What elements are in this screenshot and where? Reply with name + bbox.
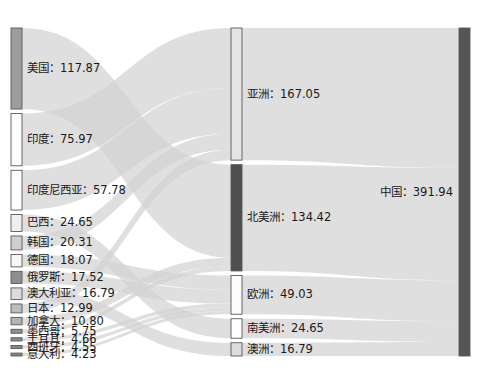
sankey-node-label-indonesia: 印度尼西亚：57.78 [27,183,126,197]
sankey-node-label-russia: 俄罗斯：17.52 [27,270,104,284]
sankey-node-oceania[interactable] [231,343,242,356]
sankey-node-label-oceania: 澳洲：16.79 [247,342,313,356]
sankey-node-russia[interactable] [11,271,22,283]
sankey-node-label-brazil: 巴西：24.65 [27,215,93,229]
sankey-node-korea[interactable] [11,236,22,250]
sankey-node-label-china: 中国：391.94 [380,185,453,199]
sankey-node-label-us: 美国：117.87 [27,61,100,75]
sankey-node-europe[interactable] [231,275,242,314]
sankey-node-asia[interactable] [231,28,242,160]
sankey-node-us[interactable] [11,28,22,109]
sankey-node-samerica[interactable] [231,319,242,338]
sankey-node-mexico[interactable] [11,329,22,333]
sankey-node-canada[interactable] [11,317,22,324]
sankey-node-brazil[interactable] [11,215,22,232]
sankey-node-japan[interactable] [11,304,22,313]
sankey-node-label-europe: 欧洲：49.03 [247,287,313,301]
sankey-node-italy[interactable] [11,353,22,356]
sankey-diagram: 美国：117.87印度：75.97印度尼西亚：57.78巴西：24.65韩国：2… [0,0,483,369]
sankey-node-label-namerica: 北美洲：134.42 [247,210,331,224]
sankey-node-label-india: 印度：75.97 [27,132,93,146]
sankey-node-label-italy: 意大利：4.23 [27,347,97,361]
sankey-node-label-australia: 澳大利亚：16.79 [27,286,115,300]
sankey-node-label-korea: 韩国：20.31 [27,235,93,249]
sankey-node-namerica[interactable] [231,165,242,271]
sankey-node-india[interactable] [11,114,22,166]
sankey-node-turkey[interactable] [11,338,22,341]
sankey-node-china[interactable] [459,28,470,356]
sankey-node-label-samerica: 南美洲：24.65 [247,321,324,335]
sankey-node-australia[interactable] [11,288,22,300]
sankey-node-label-germany: 德国：18.07 [27,253,93,267]
sankey-node-spain[interactable] [11,345,22,348]
sankey-canvas: 美国：117.87印度：75.97印度尼西亚：57.78巴西：24.65韩国：2… [0,0,483,369]
sankey-node-indonesia[interactable] [11,170,22,210]
sankey-node-germany[interactable] [11,254,22,266]
sankey-node-label-asia: 亚洲：167.05 [247,87,320,101]
